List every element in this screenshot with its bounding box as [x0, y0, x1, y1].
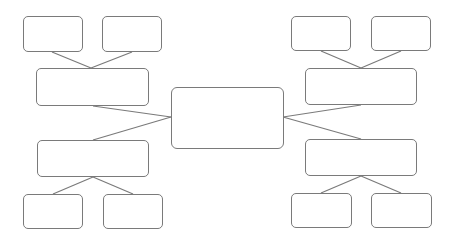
branch-node-bottom-left[interactable]: [37, 140, 149, 177]
leaf-node-top-right-1[interactable]: [291, 16, 351, 51]
leaf-node-bottom-left-2[interactable]: [103, 194, 163, 229]
connector-line: [361, 176, 401, 193]
branch-node-top-left[interactable]: [36, 68, 149, 106]
connector-line: [321, 176, 361, 193]
connector-line: [91, 52, 132, 68]
connector-line: [53, 177, 93, 194]
leaf-node-bottom-left-1[interactable]: [23, 194, 83, 229]
branch-node-bottom-right[interactable]: [305, 139, 417, 176]
connector-line: [93, 117, 171, 140]
connector-line: [52, 52, 91, 68]
connector-line: [321, 51, 361, 68]
leaf-node-top-left-1[interactable]: [23, 16, 83, 52]
connector-line: [361, 51, 401, 68]
connector-line: [283, 117, 361, 139]
mind-map-diagram: [0, 0, 453, 242]
connector-line: [93, 177, 133, 194]
leaf-node-bottom-right-1[interactable]: [291, 193, 352, 228]
connector-line: [283, 105, 361, 117]
leaf-node-top-right-2[interactable]: [371, 16, 431, 51]
branch-node-top-right[interactable]: [305, 68, 417, 105]
central-node[interactable]: [171, 87, 284, 149]
leaf-node-top-left-2[interactable]: [102, 16, 162, 52]
connector-line: [93, 106, 171, 117]
leaf-node-bottom-right-2[interactable]: [371, 193, 432, 228]
